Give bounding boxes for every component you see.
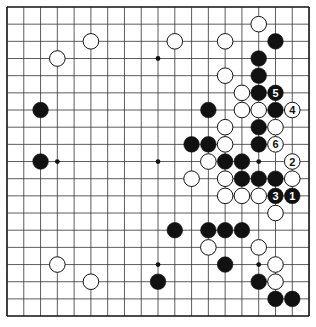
- black-stone-disc: [217, 257, 233, 273]
- white-stone: [251, 102, 267, 118]
- white-stone-disc: [217, 137, 233, 153]
- white-stone-disc: [167, 34, 183, 50]
- white-stone-disc: [50, 51, 66, 67]
- black-stone: [251, 68, 267, 84]
- white-stone-disc: [50, 257, 66, 273]
- black-stone-disc: [284, 291, 300, 307]
- black-stone: [217, 222, 233, 238]
- black-stone: [251, 85, 267, 101]
- star-point: [156, 56, 161, 61]
- go-board: 531462: [0, 0, 316, 327]
- black-stone-disc: [251, 51, 267, 67]
- white-stone-disc: [251, 102, 267, 118]
- star-point: [55, 159, 60, 164]
- white-stone-disc: [234, 85, 250, 101]
- black-stone: [251, 51, 267, 67]
- black-stone-disc: [251, 274, 267, 290]
- white-stone: [268, 274, 284, 290]
- white-stone: [184, 171, 200, 187]
- black-stone-disc: [268, 102, 284, 118]
- star-point: [256, 262, 261, 267]
- black-stone: [201, 222, 217, 238]
- white-stone: [284, 171, 300, 187]
- white-stone-disc: [268, 205, 284, 221]
- white-stone-disc: [201, 154, 217, 170]
- black-stone: [251, 137, 267, 153]
- white-stone: [217, 68, 233, 84]
- black-stone: [234, 171, 250, 187]
- white-stone: [234, 188, 250, 204]
- black-stone-disc: [184, 137, 200, 153]
- white-stone: [83, 34, 99, 50]
- black-stone-disc: [234, 154, 250, 170]
- black-stone-disc: [268, 34, 284, 50]
- black-stone: [150, 274, 166, 290]
- star-point: [156, 159, 161, 164]
- star-point: [156, 262, 161, 267]
- white-stone-disc: [268, 119, 284, 135]
- white-stone-disc: [217, 171, 233, 187]
- black-stone-move-5: 5: [268, 85, 284, 101]
- black-stone-disc: [251, 137, 267, 153]
- black-stone: [184, 137, 200, 153]
- move-number-label: 1: [289, 190, 295, 202]
- black-stone-disc: [201, 102, 217, 118]
- black-stone: [251, 119, 267, 135]
- black-stone: [217, 154, 233, 170]
- white-stone-disc: [268, 274, 284, 290]
- white-stone: [268, 205, 284, 221]
- black-stone: [217, 257, 233, 273]
- black-stone-disc: [33, 154, 49, 170]
- white-stone-disc: [251, 16, 267, 32]
- white-stone: [234, 102, 250, 118]
- black-stone-disc: [234, 222, 250, 238]
- black-stone: [201, 137, 217, 153]
- move-number-label: 2: [289, 156, 295, 168]
- black-stone: [284, 291, 300, 307]
- white-stone-disc: [234, 102, 250, 118]
- white-stone-disc: [217, 68, 233, 84]
- black-stone: [234, 154, 250, 170]
- white-stone-move-4: 4: [284, 102, 300, 118]
- white-stone: [201, 154, 217, 170]
- black-stone: [268, 291, 284, 307]
- black-stone: [33, 154, 49, 170]
- black-stone-disc: [251, 171, 267, 187]
- black-stone-disc: [234, 171, 250, 187]
- white-stone-disc: [184, 171, 200, 187]
- move-number-label: 3: [272, 190, 278, 202]
- white-stone: [217, 137, 233, 153]
- white-stone-disc: [83, 34, 99, 50]
- white-stone-disc: [251, 240, 267, 256]
- white-stone-move-2: 2: [284, 154, 300, 170]
- white-stone: [217, 188, 233, 204]
- black-stone-disc: [217, 154, 233, 170]
- black-stone-disc: [201, 137, 217, 153]
- white-stone-disc: [83, 274, 99, 290]
- white-stone-disc: [201, 240, 217, 256]
- white-stone-disc: [268, 257, 284, 273]
- white-stone: [251, 240, 267, 256]
- white-stone: [83, 274, 99, 290]
- black-stone-disc: [201, 222, 217, 238]
- white-stone: [217, 171, 233, 187]
- star-point: [256, 159, 261, 164]
- black-stone: [234, 222, 250, 238]
- white-stone-disc: [284, 171, 300, 187]
- black-stone-disc: [217, 222, 233, 238]
- black-stone: [167, 222, 183, 238]
- black-stone-move-1: 1: [284, 188, 300, 204]
- white-stone: [217, 119, 233, 135]
- white-stone-disc: [251, 188, 267, 204]
- move-number-label: 6: [272, 138, 278, 150]
- white-stone-disc: [217, 34, 233, 50]
- white-stone: [201, 240, 217, 256]
- white-stone-disc: [217, 188, 233, 204]
- move-number-label: 5: [272, 87, 278, 99]
- black-stone: [268, 171, 284, 187]
- white-stone: [268, 257, 284, 273]
- white-stone: [251, 16, 267, 32]
- white-stone: [167, 34, 183, 50]
- black-stone-disc: [150, 274, 166, 290]
- black-stone: [251, 171, 267, 187]
